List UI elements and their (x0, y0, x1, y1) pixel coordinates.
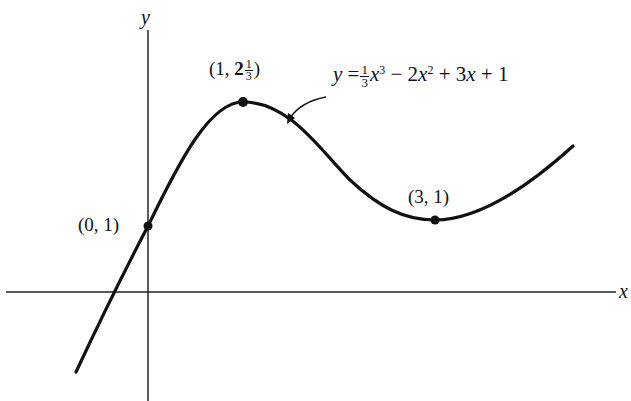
eq-op2: + (439, 62, 451, 86)
label-local-max: (1, 213) (209, 58, 260, 82)
eq-term1-exp: 3 (379, 63, 385, 77)
label-local-max-fraction: 13 (245, 59, 253, 82)
point-local-max (238, 97, 248, 107)
label-y-intercept: (0, 1) (78, 214, 119, 236)
eq-term1-var: x (370, 62, 379, 86)
label-local-max-close: ) (254, 58, 260, 79)
eq-fraction: 13 (360, 64, 369, 89)
eq-term2-coef: 2 (408, 62, 419, 86)
eq-op1: − (391, 62, 403, 86)
eq-term3-coef: 3 (456, 62, 467, 86)
label-local-min: (3, 1) (408, 186, 449, 208)
eq-frac-den: 3 (360, 77, 369, 89)
eq-sign: = (348, 62, 360, 86)
label-local-max-whole: 2 (234, 58, 244, 79)
label-local-max-open: (1, (209, 58, 234, 79)
fraction-denominator: 3 (245, 71, 253, 82)
point-y-intercept (144, 222, 153, 231)
point-local-min (431, 216, 440, 225)
eq-constant: 1 (498, 62, 509, 86)
eq-lhs: y (333, 62, 342, 86)
cubic-curve (76, 102, 573, 372)
graph-canvas (0, 0, 631, 401)
eq-term2-exp: 2 (427, 63, 433, 77)
x-axis-label: x (619, 280, 628, 303)
y-axis-label: y (141, 6, 150, 29)
function-equation: y =13x3 − 2x2 + 3x + 1 (333, 62, 508, 89)
label-pointer-arrow (290, 97, 326, 118)
eq-term3-var: x (466, 62, 475, 86)
eq-op3: + (481, 62, 493, 86)
